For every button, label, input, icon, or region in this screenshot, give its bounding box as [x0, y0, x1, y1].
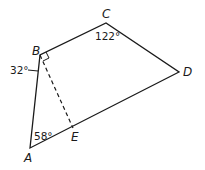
geometry-diagram: B C D E A 122° 32° 58° — [0, 0, 205, 170]
vertex-label-c: C — [102, 7, 111, 21]
angle-label-b-outer: 32° — [10, 64, 29, 76]
angle-pointer-32 — [28, 70, 38, 71]
vertex-label-e: E — [71, 130, 79, 144]
segment-be — [40, 55, 73, 128]
angle-label-a: 58° — [34, 130, 53, 142]
angle-label-c: 122° — [95, 30, 120, 42]
vertex-label-a: A — [23, 151, 32, 165]
vertex-label-d: D — [183, 65, 192, 79]
vertex-label-b: B — [32, 44, 40, 58]
